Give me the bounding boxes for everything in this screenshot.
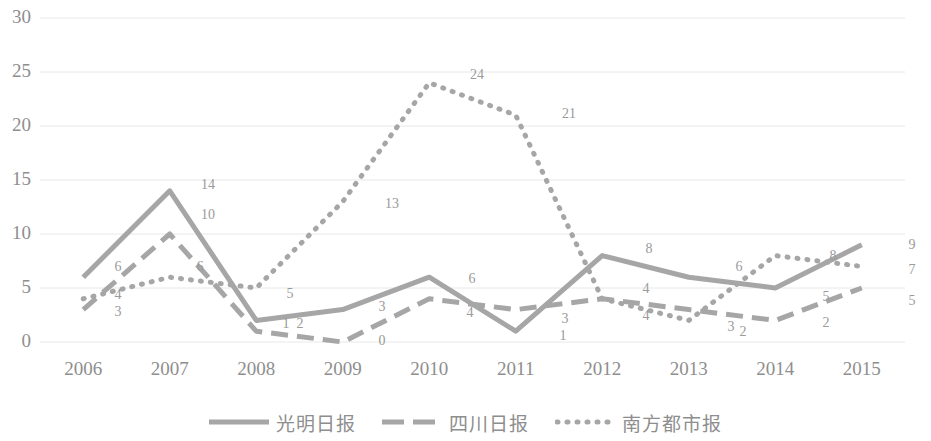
data-point-label: 5	[898, 293, 926, 309]
data-point-label: 6	[725, 259, 753, 275]
x-tick-label: 2011	[471, 358, 561, 380]
legend-swatch-solid	[209, 416, 269, 428]
legend-label: 光明日报	[276, 409, 356, 436]
legend-item-2[interactable]: 四川日报	[382, 409, 529, 436]
x-tick-label: 2012	[557, 358, 647, 380]
data-point-label: 10	[194, 207, 222, 223]
y-tick-label: 30	[0, 6, 31, 28]
x-tick-label: 2009	[298, 358, 388, 380]
data-point-label: 6	[458, 271, 486, 287]
legend-item-1[interactable]: 光明日报	[209, 409, 356, 436]
data-point-label: 9	[898, 237, 926, 253]
data-point-label: 8	[635, 241, 663, 257]
data-point-label: 4	[456, 305, 484, 321]
data-point-label: 5	[812, 289, 840, 305]
data-point-label: 2	[812, 315, 840, 331]
data-point-label: 5	[276, 286, 304, 302]
x-tick-label: 2007	[125, 358, 215, 380]
data-point-label: 7	[898, 262, 926, 278]
y-tick-label: 20	[0, 114, 31, 136]
y-tick-label: 25	[0, 60, 31, 82]
data-point-label: 2	[729, 324, 757, 340]
y-tick-label: 0	[0, 330, 31, 352]
x-tick-label: 2010	[384, 358, 474, 380]
data-point-label: 4	[632, 281, 660, 297]
line-chart: 302520151050 200620072008200920102011201…	[0, 0, 931, 441]
data-point-label: 4	[632, 308, 660, 324]
chart-legend: 光明日报四川日报南方都市报	[0, 403, 931, 441]
data-point-label: 2	[286, 316, 314, 332]
y-tick-label: 5	[0, 276, 31, 298]
x-tick-label: 2015	[817, 358, 907, 380]
legend-item-3[interactable]: 南方都市报	[555, 409, 722, 436]
data-point-label: 3	[104, 304, 132, 320]
data-point-label: 14	[194, 177, 222, 193]
y-tick-label: 15	[0, 168, 31, 190]
data-point-label: 3	[368, 299, 396, 315]
data-point-label: 13	[378, 196, 406, 212]
data-point-label: 6	[186, 259, 214, 275]
data-point-label: 0	[368, 333, 396, 349]
legend-swatch-dotted	[555, 416, 615, 428]
data-point-label: 8	[819, 248, 847, 264]
legend-label: 四川日报	[449, 409, 529, 436]
y-tick-label: 10	[0, 222, 31, 244]
legend-swatch-dashed	[382, 416, 442, 428]
legend-label: 南方都市报	[622, 409, 722, 436]
data-point-label: 24	[463, 67, 491, 83]
x-tick-label: 2014	[730, 358, 820, 380]
data-point-label: 1	[549, 328, 577, 344]
x-tick-label: 2006	[38, 358, 128, 380]
x-tick-label: 2013	[644, 358, 734, 380]
x-tick-label: 2008	[211, 358, 301, 380]
data-point-label: 6	[104, 259, 132, 275]
data-point-label: 3	[551, 311, 579, 327]
data-point-label: 21	[555, 106, 583, 122]
data-point-label: 4	[104, 287, 132, 303]
